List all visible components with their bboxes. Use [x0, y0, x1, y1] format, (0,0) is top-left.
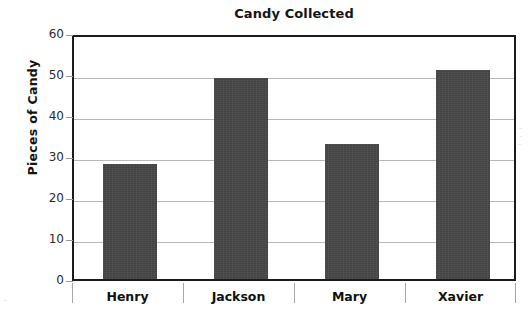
y-tick-label: 60	[26, 27, 64, 41]
y-tick-label: 0	[26, 273, 64, 287]
chart-title: Candy Collected	[72, 6, 516, 21]
x-axis-label-xavier: Xavier	[405, 283, 516, 313]
bar-jackson[interactable]	[214, 78, 268, 279]
x-axis-separator	[515, 283, 516, 303]
y-tick-mark	[66, 281, 73, 282]
y-tick-label: 50	[26, 68, 64, 82]
y-tick-label: 10	[26, 232, 64, 246]
bar-chart: Candy Collected Pieces of Candy 01020304…	[0, 0, 531, 319]
x-axis-separator	[294, 283, 295, 303]
x-axis-separator	[405, 283, 406, 303]
y-tick-mark	[66, 35, 73, 36]
bar-henry[interactable]	[103, 164, 157, 279]
scan-artifact	[4, 300, 7, 301]
x-axis-labels: HenryJacksonMaryXavier	[72, 283, 516, 313]
y-tick-mark	[66, 240, 73, 241]
plot-area	[72, 35, 516, 281]
y-tick-label: 30	[26, 150, 64, 164]
scan-artifact	[519, 128, 522, 129]
y-tick-mark	[66, 199, 73, 200]
x-axis-label-jackson: Jackson	[183, 283, 294, 313]
x-axis-separator	[183, 283, 184, 303]
bar-xavier[interactable]	[436, 70, 490, 279]
x-axis-separator	[72, 283, 73, 303]
bar-mary[interactable]	[325, 144, 379, 279]
x-axis-label-henry: Henry	[72, 283, 183, 313]
scan-artifact	[518, 144, 521, 145]
y-tick-label: 40	[26, 109, 64, 123]
y-tick-mark	[66, 117, 73, 118]
y-tick-mark	[66, 158, 73, 159]
y-tick-label: 20	[26, 191, 64, 205]
scan-artifact	[520, 136, 522, 137]
x-axis-label-mary: Mary	[294, 283, 405, 313]
y-tick-mark	[66, 76, 73, 77]
